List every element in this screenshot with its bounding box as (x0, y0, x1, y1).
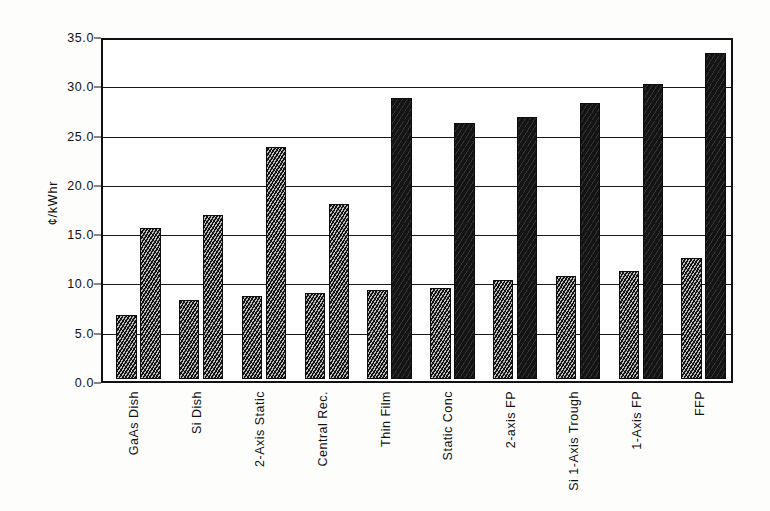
x-tick-label: FFP (693, 391, 707, 416)
bar-group (305, 42, 350, 379)
bar-group (556, 42, 601, 379)
plot-area (101, 38, 733, 383)
bar (140, 228, 161, 379)
bar (705, 53, 726, 379)
x-tick-label: 2-axis FP (504, 391, 518, 448)
y-tick-mark (94, 38, 101, 39)
bar (367, 290, 388, 379)
y-axis-ticks: 0.05.010.015.020.025.030.035.0 (44, 38, 94, 383)
y-tick-label: 0.0 (50, 376, 94, 390)
bar-group (116, 42, 161, 379)
y-tick-label: 35.0 (50, 31, 94, 45)
y-tick-label: 25.0 (50, 130, 94, 144)
x-label-slot: GaAs Dish (103, 383, 166, 511)
y-tick-label: 10.0 (50, 277, 94, 291)
bar (305, 293, 326, 379)
y-tick-mark (94, 235, 101, 236)
bar-group (179, 42, 224, 379)
bar (454, 123, 475, 379)
bar (681, 258, 702, 379)
x-tick-label: Static Conc (441, 391, 455, 460)
bar (580, 103, 601, 379)
bar (391, 98, 412, 379)
y-tick-mark (94, 136, 101, 137)
bar-group (493, 42, 538, 379)
bar-group (619, 42, 664, 379)
y-tick-label: 20.0 (50, 179, 94, 193)
x-tick-label: 2-Axis Static (253, 391, 267, 467)
x-label-slot: Central Rec. (291, 383, 354, 511)
x-label-slot: FFP (668, 383, 731, 511)
bar-group (242, 42, 287, 379)
bar-series-container (105, 42, 729, 379)
x-axis-labels: GaAs DishSi Dish2-Axis StaticCentral Rec… (101, 383, 733, 511)
x-label-slot: 2-axis FP (480, 383, 543, 511)
bar (329, 204, 350, 379)
y-tick-mark (94, 383, 101, 384)
y-tick-mark (94, 185, 101, 186)
bar (242, 296, 263, 379)
x-tick-label: Thin Film (379, 391, 393, 447)
bar (266, 147, 287, 379)
chart-page: ¢/kWhr 0.05.010.015.020.025.030.035.0 Ga… (0, 0, 770, 511)
y-tick-mark (94, 333, 101, 334)
x-tick-label: Si 1-Axis Trough (567, 391, 581, 491)
y-tick-label: 15.0 (50, 228, 94, 242)
y-tick-mark (94, 87, 101, 88)
x-label-slot: Thin Film (354, 383, 417, 511)
y-tick-label: 30.0 (50, 80, 94, 94)
x-tick-label: GaAs Dish (127, 391, 141, 455)
x-label-slot: 2-Axis Static (229, 383, 292, 511)
bar (203, 215, 224, 379)
bar (643, 84, 664, 379)
bar (116, 315, 137, 379)
x-tick-label: 1-Axis FP (630, 391, 644, 450)
x-tick-label: Si Dish (190, 391, 204, 434)
x-label-slot: Si Dish (166, 383, 229, 511)
x-label-slot: Static Conc (417, 383, 480, 511)
bar (556, 276, 577, 380)
x-label-slot: Si 1-Axis Trough (543, 383, 606, 511)
bar (493, 280, 514, 379)
x-label-slot: 1-Axis FP (605, 383, 668, 511)
bar (179, 300, 200, 379)
y-tick-mark (94, 284, 101, 285)
bar-group (430, 42, 475, 379)
bar-group (367, 42, 412, 379)
bar (517, 117, 538, 379)
x-tick-label: Central Rec. (316, 391, 330, 466)
bar (430, 288, 451, 379)
bar (619, 271, 640, 379)
y-tick-label: 5.0 (50, 327, 94, 341)
bar-group (681, 42, 726, 379)
